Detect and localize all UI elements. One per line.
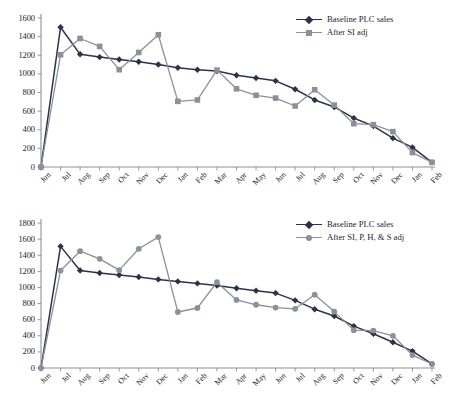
data-point-marker [272,290,278,296]
legend-diamond-icon [296,14,322,25]
y-axis-tick-label: 200 [0,144,35,153]
legend-entry: After SI, P, H, & S adj [296,232,404,243]
y-axis-tick-label: 0 [0,163,35,172]
data-point-marker [97,44,103,50]
data-point-marker [429,361,435,367]
y-axis-tick-label: 1400 [0,251,35,260]
data-point-marker [155,234,161,240]
y-axis-tick-label: 1000 [0,283,35,292]
legend-bottom: Baseline PLC salesAfter SI, P, H, & S ad… [296,219,404,245]
data-point-marker [410,150,416,156]
data-point-marker [214,67,220,73]
legend-entry: After SI adj [296,27,393,38]
data-point-marker [195,305,201,311]
data-point-marker [96,270,102,276]
data-point-marker [234,86,240,92]
data-point-marker [156,32,162,38]
data-point-marker [390,339,396,345]
data-point-marker [194,280,200,286]
data-point-marker [253,92,259,98]
data-point-marker [312,97,318,103]
data-point-marker [272,78,278,84]
y-axis-tick-label: 1600 [0,14,35,23]
y-axis-tick-label: 800 [0,299,35,308]
data-point-marker [273,95,279,101]
y-axis-tick-label: 1200 [0,51,35,60]
data-point-marker [292,86,298,92]
legend-circle-icon [296,232,322,243]
legend-square-icon [296,27,322,38]
data-point-marker [214,279,220,285]
data-point-marker [136,246,142,252]
legend-entry: Baseline PLC sales [296,219,404,230]
data-point-marker [351,121,357,127]
data-point-marker [292,297,298,303]
y-axis-tick-label: 400 [0,125,35,134]
y-axis-tick-label: 400 [0,331,35,340]
plot-area-bottom: 020040060080010001200140016001800 JunJul… [0,201,450,401]
legend-label: Baseline PLC sales [327,219,393,230]
data-point-marker [136,50,142,56]
data-point-marker [77,248,83,254]
data-point-marker [234,297,240,303]
legend-marker-swatch [305,15,313,23]
data-point-marker [38,365,44,371]
data-point-marker [410,352,416,358]
y-axis-tick-label: 1800 [0,219,35,228]
data-point-marker [390,333,396,339]
y-axis-tick-label: 600 [0,107,35,116]
data-point-marker [253,287,259,293]
chart-bottom: 020040060080010001200140016001800 JunJul… [0,201,450,401]
legend-marker-swatch [306,235,312,241]
data-point-marker [312,306,318,312]
data-point-marker [312,87,318,93]
y-axis-tick-label: 0 [0,364,35,373]
y-axis-tick-label: 800 [0,88,35,97]
data-point-marker [155,276,161,282]
data-point-marker [38,164,44,170]
data-point-marker [292,103,298,109]
data-point-marker [370,328,376,334]
data-point-marker [116,267,122,273]
data-point-marker [175,65,181,71]
data-point-marker [155,61,161,67]
data-point-marker [351,115,357,121]
series-line [41,246,432,368]
data-point-marker [194,66,200,72]
legend-label: After SI adj [327,27,368,38]
data-point-marker [351,327,357,333]
data-point-marker [233,72,239,78]
y-axis-tick-label: 1000 [0,69,35,78]
data-point-marker [312,292,318,298]
data-point-marker [233,285,239,291]
data-point-marker [429,160,435,166]
data-point-marker [331,102,337,108]
legend-diamond-icon [296,219,322,230]
y-axis-tick-label: 600 [0,315,35,324]
data-point-marker [175,99,181,105]
data-point-marker [175,278,181,284]
legend-marker-swatch [305,220,313,228]
data-point-marker [273,305,279,311]
chart-top: 02004006008001000120014001600 JunJulAugS… [0,0,450,200]
legend-label: After SI, P, H, & S adj [327,232,404,243]
data-point-marker [292,306,298,312]
data-point-marker [175,309,181,315]
data-point-marker [96,54,102,60]
y-axis-tick-label: 1200 [0,267,35,276]
data-point-marker [136,274,142,280]
legend-entry: Baseline PLC sales [296,14,393,25]
data-point-marker [195,97,201,103]
figure-sheet: 02004006008001000120014001600 JunJulAugS… [0,0,450,401]
y-axis-tick-label: 1600 [0,235,35,244]
data-point-marker [136,59,142,65]
plot-area-top: 02004006008001000120014001600 JunJulAugS… [0,0,450,200]
data-point-marker [371,122,377,128]
data-point-marker [253,302,259,308]
legend-marker-swatch [306,30,312,36]
data-point-marker [253,75,259,81]
data-point-marker [116,67,122,73]
data-point-marker [97,256,103,262]
data-point-marker [77,36,83,42]
data-point-marker [58,52,64,58]
